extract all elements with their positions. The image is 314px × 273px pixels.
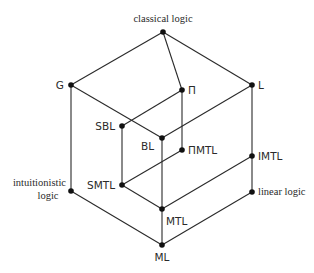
node-SMTL [119, 182, 125, 188]
edge-L-BL [162, 85, 252, 138]
logic-lattice-diagram: classical logicGΠLSBLBLΠMTLIMTLSMTLintui… [0, 0, 314, 273]
label-classical: classical logic [133, 13, 193, 24]
label-intuitionistic-line2: logic [38, 190, 59, 201]
edge-Pi-SBL [122, 90, 182, 126]
label-BL: BL [141, 140, 154, 152]
node-linear [249, 189, 255, 195]
edge-PiMTL-SMTL [122, 150, 182, 185]
node-G [68, 82, 74, 88]
label-G: G [56, 79, 64, 91]
node-MTL [159, 206, 165, 212]
edge-IMTL-MTL [162, 156, 252, 209]
label-MTL: MTL [166, 215, 187, 227]
node-IMTL [249, 153, 255, 159]
node-classical [160, 29, 166, 35]
label-SMTL: SMTL [87, 179, 115, 191]
edge-classical-L [163, 32, 252, 85]
node-ML [159, 242, 165, 248]
node-intuitionistic [68, 188, 74, 194]
label-SBL: SBL [95, 120, 115, 132]
edge-SMTL-MTL [122, 185, 162, 209]
edge-G-BL [71, 85, 162, 138]
node-Pi [179, 87, 185, 93]
edge-classical-G [71, 32, 163, 85]
node-L [249, 82, 255, 88]
node-PiMTL [179, 147, 185, 153]
label-L: L [258, 79, 264, 91]
label-linear: linear logic [258, 186, 306, 197]
label-Pi: Π [188, 84, 196, 96]
label-PiMTL: ΠMTL [188, 144, 217, 156]
label-ML: ML [155, 251, 170, 263]
label-intuitionistic: intuitionistic [13, 177, 66, 188]
label-IMTL: IMTL [258, 150, 283, 162]
edge-classical-Pi [163, 32, 182, 90]
edge-intuitionistic-ML [71, 191, 162, 245]
node-BL [159, 135, 165, 141]
node-SBL [119, 123, 125, 129]
